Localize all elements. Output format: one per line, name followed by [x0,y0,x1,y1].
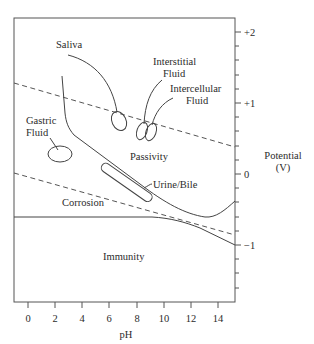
saliva-leader-line [68,55,117,112]
x-tick-label: 12 [186,313,197,324]
y-axis-tick-labels: +2 +1 0 −1 [244,27,255,251]
y-tick-label: +1 [244,98,255,109]
saliva-zone [108,109,129,133]
y-tick-label: 0 [244,169,249,180]
urine-bile-label: Urine/Bile [153,179,198,190]
urine-bile-zone [100,162,154,204]
pourbaix-diagram: +2 +1 0 −1 Potential (V) 0 2 4 6 8 10 12… [0,0,314,344]
immunity-region-label: Immunity [103,251,145,262]
gastric-fluid-label-2: Fluid [26,127,49,138]
gastric-fluid-label: Gastric [26,115,57,126]
gastric-fluid-zone [48,146,72,162]
x-tick-label: 0 [25,313,30,324]
x-tick-label: 14 [213,313,224,324]
intercellular-fluid-label: Intercellular [170,83,222,94]
y-axis-ticks [235,32,241,288]
interstitial-leader-line [144,80,162,124]
y-tick-label: +2 [244,27,255,38]
x-tick-label: 2 [52,313,57,324]
y-axis-title: Potential [264,150,301,161]
passivity-boundary-curve [62,76,235,217]
intercellular-leader-line [152,98,173,125]
interstitial-fluid-label: Interstitial [153,56,196,67]
intercellular-fluid-label-2: Fluid [186,95,209,106]
immunity-boundary-curve [14,217,235,245]
x-tick-label: 6 [106,313,111,324]
interstitial-fluid-label-2: Fluid [163,68,186,79]
y-axis-title-unit: (V) [276,162,291,174]
intercellular-fluid-zone [143,122,159,142]
x-axis-ticks [28,302,218,308]
saliva-label: Saliva [56,39,83,50]
urine-bile-leader-line [144,184,152,188]
lower-water-line [14,173,235,235]
corrosion-region-label: Corrosion [62,197,105,208]
x-tick-label: 10 [159,313,170,324]
x-tick-label: 4 [79,313,85,324]
y-tick-label: −1 [244,240,255,251]
passivity-region-label: Passivity [130,151,169,162]
interstitial-fluid-zone [134,121,150,141]
x-tick-label: 8 [134,313,139,324]
x-axis-tick-labels: 0 2 4 6 8 10 12 14 [25,313,224,324]
x-axis-title: pH [120,329,133,340]
